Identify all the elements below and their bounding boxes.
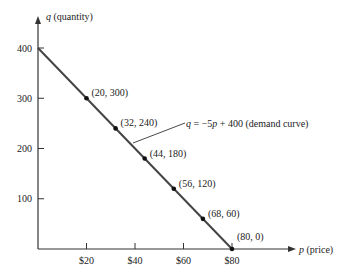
x-tick-label: $20 [79,255,94,266]
y-axis-label: q (quantity) [46,11,93,23]
demand-curve-chart: q (quantity) p (price) 100200300400 $20$… [0,0,349,270]
x-tick-label: $80 [225,255,240,266]
data-point-label: (56, 120) [179,178,216,190]
x-tick-label: $60 [176,255,191,266]
data-point-marker [113,126,118,131]
y-axis-arrow-icon [35,16,41,24]
data-point-marker [201,217,206,222]
x-axis-arrow-icon [288,246,296,252]
y-tick-label: 200 [17,143,32,154]
data-point-marker [230,247,235,252]
data-point-label: (32, 240) [121,117,158,129]
y-tick-label: 400 [17,43,32,54]
data-point-label: (20, 300) [92,87,129,99]
data-point-marker [172,186,177,191]
equation-annotation: q = −5p + 400 (demand curve) [133,118,308,143]
x-tick-label: $40 [128,255,143,266]
data-points: (20, 300)(32, 240)(44, 180)(56, 120)(68,… [84,87,263,251]
data-point-marker [142,156,147,161]
y-tick-label: 300 [17,93,32,104]
data-point-label: (80, 0) [237,231,264,243]
y-ticks: 100200300400 [17,43,44,205]
data-point-label: (68, 60) [208,208,240,220]
x-ticks: $20$40$60$80 [79,243,240,266]
data-point-label: (44, 180) [150,148,187,160]
equation-label: q = −5p + 400 (demand curve) [186,118,308,130]
y-tick-label: 100 [17,193,32,204]
y-axis: q (quantity) [35,11,93,249]
x-axis-label: p (price) [298,244,333,256]
data-point-marker [84,96,89,101]
